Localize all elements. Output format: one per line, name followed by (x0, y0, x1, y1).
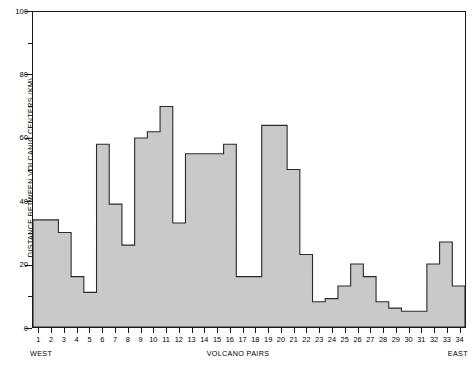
x-tick (409, 328, 410, 333)
y-tick-label: 0 (4, 324, 28, 333)
x-tick (192, 328, 193, 333)
x-tick (51, 328, 52, 333)
east-label: EAST (448, 349, 468, 358)
x-tick (217, 328, 218, 333)
y-tick-label: 80 (4, 70, 28, 79)
x-tick (319, 328, 320, 333)
x-tick (281, 328, 282, 333)
x-tick (166, 328, 167, 333)
x-tick (306, 328, 307, 333)
x-tick (370, 328, 371, 333)
x-tick (345, 328, 346, 333)
x-tick (38, 328, 39, 333)
x-tick (243, 328, 244, 333)
x-tick (77, 328, 78, 333)
x-tick (115, 328, 116, 333)
x-tick (64, 328, 65, 333)
plot-area (32, 11, 466, 328)
x-tick (447, 328, 448, 333)
chart-container: DISTANCE BETWEEN VOLCANIC CENTERS (KM) 0… (0, 0, 476, 366)
x-tick (141, 328, 142, 333)
x-axis-title: VOLCANO PAIRS (0, 349, 476, 358)
x-tick (294, 328, 295, 333)
x-tick-label: 34 (452, 335, 468, 344)
x-tick (204, 328, 205, 333)
x-tick (383, 328, 384, 333)
y-tick-label: 20 (4, 260, 28, 269)
x-tick (396, 328, 397, 333)
y-tick-label: 40 (4, 197, 28, 206)
x-tick (255, 328, 256, 333)
x-tick (358, 328, 359, 333)
x-tick (230, 328, 231, 333)
x-tick (460, 328, 461, 333)
x-tick (268, 328, 269, 333)
x-tick (179, 328, 180, 333)
x-tick (421, 328, 422, 333)
bar-series (33, 12, 465, 327)
y-tick-label: 100 (4, 7, 28, 16)
y-tick-label: 60 (4, 133, 28, 142)
x-tick (102, 328, 103, 333)
x-tick (89, 328, 90, 333)
x-tick (434, 328, 435, 333)
x-tick (332, 328, 333, 333)
bar-outline-path (33, 107, 465, 328)
bar-outline-svg (33, 12, 465, 327)
x-tick (153, 328, 154, 333)
west-label: WEST (30, 349, 52, 358)
x-tick (128, 328, 129, 333)
